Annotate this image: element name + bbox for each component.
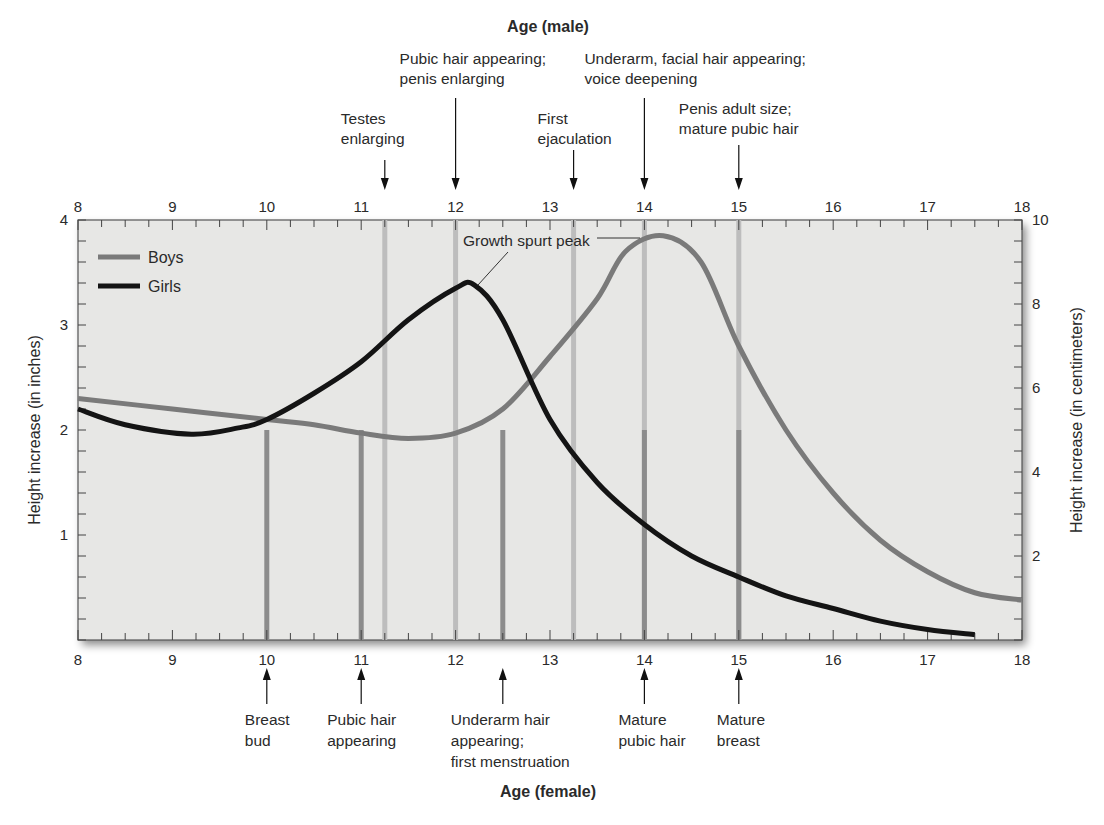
right-y-tick-label: 2 bbox=[1032, 547, 1040, 564]
top-x-tick-label: 17 bbox=[919, 198, 936, 215]
left-y-axis-title: Height increase (in inches) bbox=[26, 335, 43, 524]
arrow-down-icon bbox=[452, 178, 460, 190]
svg-text:First: First bbox=[538, 110, 569, 127]
male-milestone-annotation: Pubic hair appearing;penis enlarging bbox=[400, 50, 546, 190]
bottom-x-tick-label: 8 bbox=[74, 651, 82, 668]
svg-text:voice deepening: voice deepening bbox=[584, 70, 697, 87]
top-axis-title: Age (male) bbox=[507, 18, 589, 35]
female-milestone-annotation: Underarm hairappearing;first menstruatio… bbox=[451, 668, 570, 770]
top-x-tick-label: 8 bbox=[74, 198, 82, 215]
svg-text:ejaculation: ejaculation bbox=[538, 130, 612, 147]
svg-text:mature pubic hair: mature pubic hair bbox=[679, 120, 799, 137]
top-x-tick-label: 18 bbox=[1014, 198, 1031, 215]
top-x-tick-label: 15 bbox=[730, 198, 747, 215]
svg-text:Pubic hair: Pubic hair bbox=[327, 711, 396, 728]
bottom-x-tick-label: 18 bbox=[1014, 651, 1031, 668]
bottom-x-tick-label: 9 bbox=[168, 651, 176, 668]
female-milestone-annotation: Pubic hairappearing bbox=[327, 668, 396, 749]
svg-text:breast: breast bbox=[717, 732, 761, 749]
arrow-down-icon bbox=[735, 178, 743, 190]
top-x-tick-label: 10 bbox=[258, 198, 275, 215]
legend-label-boys: Boys bbox=[148, 249, 184, 266]
top-x-tick-label: 16 bbox=[825, 198, 842, 215]
right-y-tick-label: 6 bbox=[1032, 379, 1040, 396]
svg-text:first menstruation: first menstruation bbox=[451, 753, 570, 770]
bottom-x-tick-label: 14 bbox=[636, 651, 653, 668]
right-y-axis-title: Height increase (in centimeters) bbox=[1068, 307, 1085, 533]
top-x-tick-label: 11 bbox=[353, 198, 369, 215]
top-x-tick-label: 9 bbox=[168, 198, 176, 215]
bottom-x-tick-label: 11 bbox=[353, 651, 369, 668]
male-milestone-annotation: Firstejaculation bbox=[538, 110, 612, 190]
svg-text:Breast: Breast bbox=[245, 711, 290, 728]
svg-text:appearing: appearing bbox=[327, 732, 396, 749]
female-milestone-annotation: Maturebreast bbox=[717, 668, 765, 749]
svg-text:Mature: Mature bbox=[717, 711, 765, 728]
svg-text:penis enlarging: penis enlarging bbox=[400, 70, 505, 87]
bottom-x-tick-label: 16 bbox=[825, 651, 842, 668]
left-y-tick-label: 4 bbox=[60, 211, 68, 228]
male-milestone-annotation: Testesenlarging bbox=[341, 110, 405, 190]
left-y-tick-label: 1 bbox=[60, 526, 68, 543]
growth-chart: 8899101011111212131314141515161617171818… bbox=[0, 0, 1104, 825]
svg-text:Underarm hair: Underarm hair bbox=[451, 711, 550, 728]
bottom-x-tick-label: 10 bbox=[258, 651, 275, 668]
top-x-tick-label: 12 bbox=[447, 198, 464, 215]
bottom-x-tick-label: 17 bbox=[919, 651, 936, 668]
svg-text:pubic hair: pubic hair bbox=[618, 732, 685, 749]
svg-text:Penis adult size;: Penis adult size; bbox=[679, 100, 792, 117]
arrow-down-icon bbox=[640, 178, 648, 190]
arrow-down-icon bbox=[381, 178, 389, 190]
svg-text:Pubic hair appearing;: Pubic hair appearing; bbox=[400, 50, 546, 67]
bottom-axis-title: Age (female) bbox=[500, 783, 596, 800]
left-y-tick-label: 3 bbox=[60, 316, 68, 333]
svg-text:Testes: Testes bbox=[341, 110, 386, 127]
bottom-x-tick-label: 15 bbox=[730, 651, 747, 668]
svg-text:bud: bud bbox=[245, 732, 271, 749]
right-y-tick-label: 8 bbox=[1032, 295, 1040, 312]
legend-label-girls: Girls bbox=[148, 278, 181, 295]
left-y-tick-label: 2 bbox=[60, 421, 68, 438]
arrow-down-icon bbox=[570, 178, 578, 190]
bottom-x-tick-label: 12 bbox=[447, 651, 464, 668]
svg-text:Underarm, facial hair appearin: Underarm, facial hair appearing; bbox=[584, 50, 805, 67]
bottom-x-tick-label: 13 bbox=[542, 651, 559, 668]
svg-text:Mature: Mature bbox=[618, 711, 666, 728]
male-milestone-annotation: Penis adult size;mature pubic hair bbox=[679, 100, 799, 190]
right-y-tick-label: 4 bbox=[1032, 463, 1040, 480]
right-y-tick-label: 10 bbox=[1032, 211, 1049, 228]
top-x-tick-label: 14 bbox=[636, 198, 653, 215]
svg-text:appearing;: appearing; bbox=[451, 732, 524, 749]
female-milestone-annotation: Maturepubic hair bbox=[618, 668, 685, 749]
svg-text:enlarging: enlarging bbox=[341, 130, 405, 147]
female-milestone-annotation: Breastbud bbox=[245, 668, 290, 749]
peak-label: Growth spurt peak bbox=[463, 232, 590, 249]
top-x-tick-label: 13 bbox=[542, 198, 559, 215]
